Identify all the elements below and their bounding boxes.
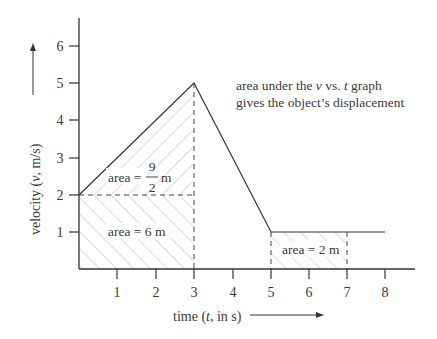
svg-text:3: 3 bbox=[57, 151, 64, 166]
svg-text:1: 1 bbox=[114, 285, 121, 300]
y-axis-label: velocity (v, m/s) bbox=[28, 143, 44, 235]
svg-text:5: 5 bbox=[268, 285, 275, 300]
svg-text:2: 2 bbox=[57, 188, 64, 203]
svg-text:area =: area = bbox=[108, 170, 141, 185]
rect1-area-label: area = 6 m bbox=[106, 223, 170, 239]
svg-text:6: 6 bbox=[306, 285, 313, 300]
note-line-1: area under the v vs. t graph bbox=[236, 78, 382, 93]
y-tick-labels: 1 2 3 4 5 6 bbox=[57, 39, 64, 240]
svg-text:2: 2 bbox=[153, 285, 160, 300]
rect2-area-label: area = 2 m bbox=[280, 241, 342, 257]
svg-text:4: 4 bbox=[230, 285, 237, 300]
svg-text:4: 4 bbox=[57, 113, 64, 128]
svg-text:area = 2 m: area = 2 m bbox=[282, 242, 340, 257]
y-arrowhead-icon bbox=[30, 43, 36, 51]
svg-text:7: 7 bbox=[344, 285, 351, 300]
velocity-time-diagram: 1 2 3 4 5 6 1 2 3 4 5 6 7 8 time (t, in … bbox=[0, 0, 437, 339]
svg-text:m: m bbox=[161, 170, 172, 185]
note-line-2: gives the object’s displacement bbox=[236, 95, 405, 110]
svg-text:area = 6 m: area = 6 m bbox=[108, 224, 166, 239]
svg-text:5: 5 bbox=[57, 76, 64, 91]
svg-text:2: 2 bbox=[149, 180, 156, 195]
svg-text:3: 3 bbox=[191, 285, 198, 300]
svg-text:8: 8 bbox=[382, 285, 389, 300]
y-ticks bbox=[69, 46, 79, 232]
x-arrowhead-icon bbox=[316, 312, 324, 318]
svg-text:1: 1 bbox=[57, 225, 64, 240]
svg-text:9: 9 bbox=[149, 159, 156, 174]
x-ticks bbox=[117, 269, 385, 279]
svg-text:6: 6 bbox=[57, 39, 64, 54]
x-tick-labels: 1 2 3 4 5 6 7 8 bbox=[114, 285, 389, 300]
x-axis-label: time (t, in s) bbox=[173, 309, 242, 325]
